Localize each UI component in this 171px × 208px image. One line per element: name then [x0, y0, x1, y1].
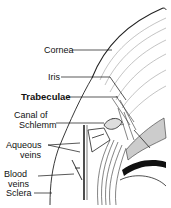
- label-canal-line1: Canal of: [14, 110, 48, 120]
- cornea-shape: [92, 8, 166, 116]
- label-aqueous-line1: Aqueous: [6, 140, 42, 150]
- label-cornea: Cornea: [44, 45, 74, 55]
- label-iris: Iris: [48, 72, 60, 82]
- label-trabeculae: Trabeculae: [21, 92, 71, 102]
- blood-vein-shape: [72, 160, 82, 180]
- iris-shape: [126, 118, 166, 160]
- label-canal-line2: Schlemm: [19, 120, 57, 130]
- lens-pigment: [122, 160, 166, 176]
- lens-outline: [120, 176, 166, 186]
- trabecular-meshwork: [112, 96, 136, 140]
- canal-of-schlemm-shape: [104, 118, 122, 129]
- ciliary-body: [98, 140, 127, 205]
- label-blood-line1: Blood: [4, 169, 27, 179]
- label-aqueous-line2: veins: [20, 150, 41, 160]
- label-sclera: Sclera: [6, 188, 32, 198]
